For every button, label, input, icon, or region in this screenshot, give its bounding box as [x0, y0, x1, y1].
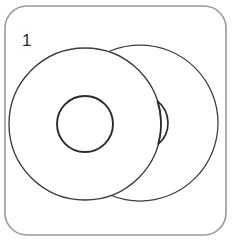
- page-title: 1: [22, 31, 31, 50]
- front-disc-hole-icon: [57, 96, 113, 152]
- figure-canvas: 1: [0, 0, 237, 243]
- figure-panel: 1: [0, 0, 237, 243]
